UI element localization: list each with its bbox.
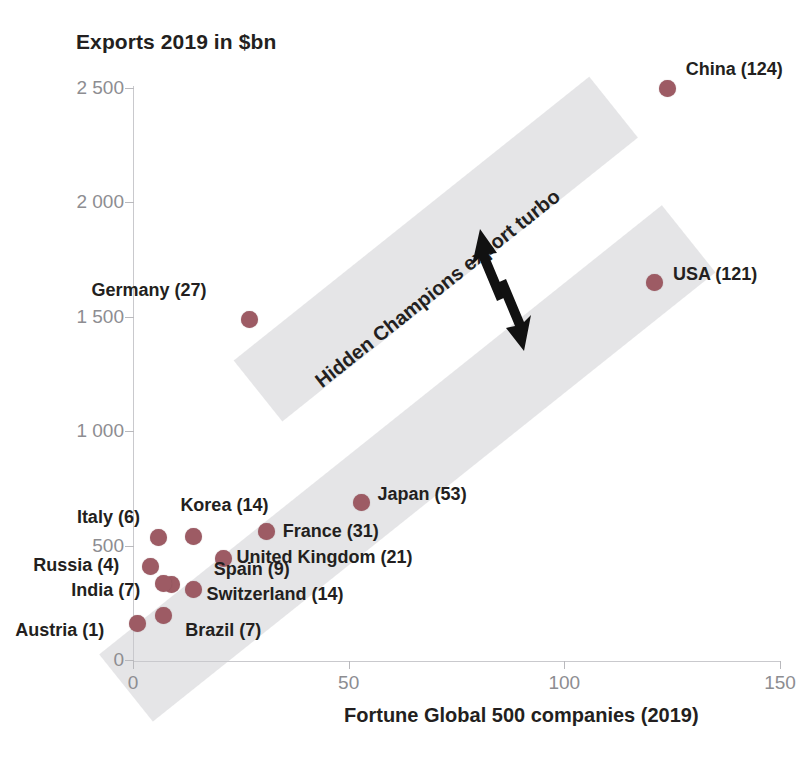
data-point-switzerland[interactable] (185, 581, 202, 598)
data-point-austria[interactable] (129, 615, 146, 632)
data-point-korea[interactable] (185, 528, 202, 545)
data-label-brazil: Brazil (7) (185, 621, 261, 639)
y-tick-label: 1 500 (40, 306, 124, 328)
scatter-chart: Exports 2019 in $bn 05001 0001 5002 0002… (0, 0, 808, 762)
data-point-germany[interactable] (241, 311, 258, 328)
data-label-korea: Korea (14) (180, 496, 268, 514)
data-point-china[interactable] (659, 80, 676, 97)
data-point-japan[interactable] (353, 494, 370, 511)
x-tick-mark (133, 661, 134, 669)
data-label-switzerland: Switzerland (14) (206, 585, 343, 603)
y-tick-label: 500 (40, 535, 124, 557)
x-tick-mark (349, 661, 350, 669)
data-point-russia[interactable] (142, 558, 159, 575)
y-tick-mark (125, 317, 134, 318)
data-label-spain: Spain (9) (214, 560, 290, 578)
y-tick-label: 1 000 (40, 420, 124, 442)
data-label-india: India (7) (71, 581, 140, 599)
data-label-japan: Japan (53) (378, 485, 467, 503)
data-label-china: China (124) (686, 60, 783, 78)
data-label-france: France (31) (283, 522, 379, 540)
y-tick-mark (125, 431, 134, 432)
y-tick-mark (125, 546, 134, 547)
y-tick-label: 2 000 (40, 191, 124, 213)
x-tick-mark (780, 661, 781, 669)
data-point-italy[interactable] (150, 529, 167, 546)
data-label-usa: USA (121) (673, 265, 757, 283)
y-tick-mark (125, 202, 134, 203)
x-tick-label: 150 (740, 672, 808, 694)
data-label-russia: Russia (4) (33, 556, 119, 574)
data-point-india[interactable] (155, 575, 172, 592)
x-tick-label: 100 (524, 672, 604, 694)
data-label-germany: Germany (27) (91, 281, 206, 299)
chart-title: Exports 2019 in $bn (76, 30, 276, 54)
x-tick-mark (564, 661, 565, 669)
double-headed-arrow (450, 225, 540, 355)
data-point-brazil[interactable] (155, 607, 172, 624)
x-axis-line (133, 661, 781, 662)
x-tick-label: 0 (93, 672, 173, 694)
y-tick-label: 2 500 (40, 77, 124, 99)
data-label-austria: Austria (1) (15, 621, 104, 639)
y-tick-label: 0 (40, 649, 124, 671)
y-axis-line (133, 86, 134, 662)
data-label-italy: Italy (6) (77, 508, 140, 526)
x-tick-label: 50 (309, 672, 389, 694)
y-tick-mark (125, 88, 134, 89)
x-axis-title: Fortune Global 500 companies (2019) (344, 704, 699, 727)
